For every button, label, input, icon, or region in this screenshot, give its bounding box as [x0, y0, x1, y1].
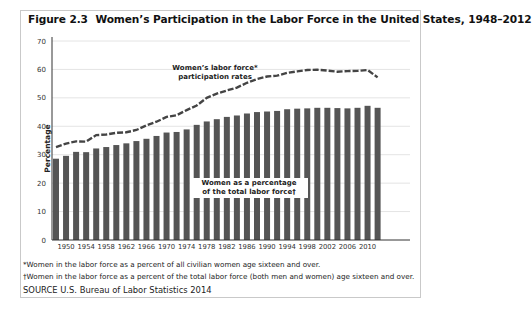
bar [53, 159, 59, 240]
bar [355, 108, 361, 240]
y-tick-label: 20 [37, 180, 46, 188]
bar [324, 108, 330, 240]
footnotes: *Women in the labor force as a percent o… [23, 259, 414, 283]
bar [244, 113, 250, 240]
x-tick-label: 1986 [238, 243, 255, 251]
bar [264, 112, 270, 240]
x-tick-label: 1962 [118, 243, 135, 251]
bar [174, 132, 180, 240]
x-tick-label: 1970 [158, 243, 175, 251]
y-tick-label: 10 [37, 208, 46, 216]
footnote-star: *Women in the labor force as a percent o… [23, 259, 414, 271]
x-tick-label: 1998 [299, 243, 316, 251]
line-label-line2: participation rates [155, 73, 275, 82]
bar-label-line1: Women as a percentage [190, 179, 308, 188]
bar [334, 108, 340, 240]
bar [93, 148, 99, 240]
line-series-label: Women’s labor force* participation rates [155, 64, 275, 82]
bar [123, 143, 129, 240]
source-note: SOURCE U.S. Bureau of Labor Statistics 2… [23, 285, 212, 295]
bar [83, 152, 89, 240]
x-tick-label: 1982 [218, 243, 235, 251]
y-tick-label: 50 [37, 94, 46, 102]
bar [254, 112, 260, 240]
bar [103, 147, 109, 240]
x-tick-label: 2010 [359, 243, 376, 251]
y-tick-label: 60 [37, 66, 46, 74]
line-label-line1: Women’s labor force* [155, 64, 275, 73]
x-tick-label: 1994 [278, 243, 295, 251]
bar [184, 129, 190, 240]
bar [143, 139, 149, 240]
y-axis-label: Percentage [43, 119, 52, 179]
x-axis-ticks: 1950195419581962196619701974197819821986… [57, 243, 376, 251]
bar [164, 133, 170, 240]
bar [304, 108, 310, 240]
y-tick-label: 70 [37, 38, 46, 46]
footnote-dagger: †Women in the labor force as a percent o… [23, 271, 414, 283]
bar [113, 145, 119, 240]
bar-series-label: Women as a percentage of the total labor… [190, 178, 308, 198]
x-tick-label: 1950 [57, 243, 74, 251]
bar [63, 156, 69, 240]
bar [274, 111, 280, 240]
x-tick-label: 2002 [319, 243, 336, 251]
y-tick-label: 0 [42, 237, 46, 245]
bar [133, 141, 139, 240]
bar [375, 108, 381, 240]
bar [365, 106, 371, 240]
bar [344, 108, 350, 240]
bar [294, 109, 300, 240]
bar [314, 108, 320, 240]
bar-label-line2: of the total labor force† [190, 188, 308, 197]
x-tick-label: 1954 [77, 243, 94, 251]
bar [284, 109, 290, 240]
bar [73, 152, 79, 240]
x-tick-label: 1990 [258, 243, 275, 251]
x-tick-label: 1958 [98, 243, 115, 251]
x-tick-label: 1978 [198, 243, 215, 251]
bar [154, 136, 160, 240]
x-tick-label: 1966 [138, 243, 155, 251]
x-tick-label: 1974 [178, 243, 195, 251]
x-tick-label: 2006 [339, 243, 356, 251]
